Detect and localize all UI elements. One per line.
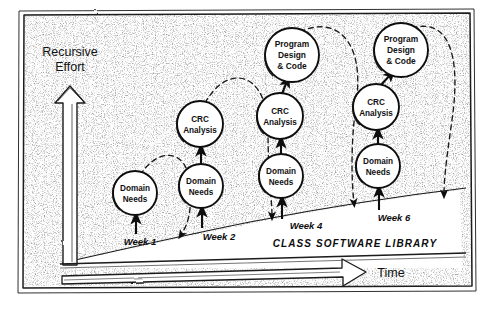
node-domain-needs-4[interactable]: Domain Needs (259, 154, 303, 198)
node-label-line-2: Analysis (359, 109, 393, 118)
week-label-week-4: Week 4 (290, 220, 323, 231)
node-label-line-2: Needs (366, 168, 391, 177)
node-label-line-1: CRC (191, 115, 209, 124)
y-axis-label-line-2: Effort (55, 60, 85, 74)
node-label-line-1: CRC (271, 107, 289, 116)
diagram-canvas: Domain Needs Domain Needs CRC Analysis (0, 0, 492, 312)
node-label-line-2: Design (278, 50, 306, 60)
recursive-effort-diagram: Domain Needs Domain Needs CRC Analysis (0, 0, 492, 312)
node-label-line-1: CRC (367, 98, 385, 107)
node-label-line-2: Needs (189, 188, 214, 197)
node-domain-needs-6[interactable]: Domain Needs (356, 144, 400, 188)
week-label-week-6: Week 6 (378, 212, 411, 223)
node-label-line-1: Domain (266, 167, 296, 176)
node-label-line-2: Design (387, 45, 415, 55)
column-week-1: Domain Needs (113, 171, 157, 215)
week-label-week-2: Week 2 (203, 231, 236, 242)
node-label-line-2: Analysis (183, 126, 217, 135)
node-label-line-3: & Code (277, 61, 307, 71)
week-label-week-1: Week 1 (124, 236, 157, 247)
node-label-line-1: Program (384, 34, 418, 44)
node-label-line-1: Program (275, 39, 309, 49)
node-crc-analysis-6[interactable]: CRC Analysis (353, 84, 399, 130)
node-program-design-code-4[interactable]: Program Design & Code (265, 28, 319, 82)
node-domain-needs-2[interactable]: Domain Needs (179, 164, 223, 208)
x-axis-label: Time (377, 266, 404, 280)
node-label-line-1: Domain (120, 184, 150, 193)
node-label-line-3: & Code (386, 56, 416, 66)
node-label-line-2: Needs (269, 178, 294, 187)
class-software-library-label: CLASS SOFTWARE LIBRARY (273, 238, 438, 249)
node-label-line-1: Domain (363, 157, 393, 166)
node-label-line-2: Analysis (263, 118, 297, 127)
node-label-line-1: Domain (186, 177, 216, 186)
node-program-design-code-6[interactable]: Program Design & Code (374, 23, 428, 77)
y-axis-label-line-1: Recursive (42, 45, 98, 59)
node-domain-needs-1[interactable]: Domain Needs (113, 171, 157, 215)
node-label-line-2: Needs (123, 195, 148, 204)
node-crc-analysis-2[interactable]: CRC Analysis (177, 101, 223, 147)
node-crc-analysis-4[interactable]: CRC Analysis (257, 93, 303, 139)
